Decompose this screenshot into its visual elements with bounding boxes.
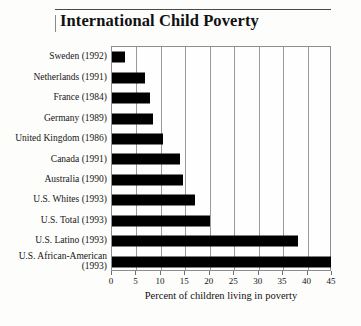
x-axis-tick-label-25: 25	[229, 276, 238, 286]
y-axis-category-labels: Sweden (1992)Netherlands (1991)France (1…	[0, 46, 107, 271]
x-axis-tick-mark-30	[258, 271, 259, 275]
y-axis-tick-label: U.S. Total (1993)	[0, 215, 107, 225]
title-divider	[55, 9, 331, 10]
bar	[112, 72, 145, 83]
bar-row	[112, 149, 330, 169]
bar-row	[112, 190, 330, 210]
x-axis-tick-mark-5	[135, 271, 136, 275]
bar-row	[112, 67, 330, 87]
bar	[112, 236, 298, 247]
bar	[112, 134, 163, 145]
x-axis-tick-mark-40	[307, 271, 308, 275]
y-axis-tick-label: U.S. Latino (1993)	[0, 235, 107, 245]
x-axis-tick-label-10: 10	[155, 276, 164, 286]
x-axis-tick-label-40: 40	[302, 276, 311, 286]
bar-row	[112, 170, 330, 190]
bar	[112, 113, 153, 124]
x-axis-tick-mark-25	[233, 271, 234, 275]
y-axis-tick-label: U.S. African-American (1993)	[0, 251, 107, 271]
title-left-tick	[55, 15, 56, 32]
bar-row	[112, 129, 330, 149]
x-axis-tick-label-5: 5	[133, 276, 138, 286]
plot-area	[111, 46, 331, 271]
x-axis-tick-mark-10	[160, 271, 161, 275]
x-axis-tick-label-30: 30	[253, 276, 262, 286]
y-axis-tick-label: Canada (1991)	[0, 154, 107, 164]
bar	[112, 215, 210, 226]
page-title: International Child Poverty	[60, 11, 259, 31]
y-axis-tick-label: Netherlands (1991)	[0, 72, 107, 82]
bar	[112, 52, 125, 63]
x-axis-tick-mark-20	[209, 271, 210, 275]
x-axis-tick-mark-0	[111, 271, 112, 275]
y-axis-tick-label: Germany (1989)	[0, 113, 107, 123]
bar-row	[112, 231, 330, 251]
bar-row	[112, 47, 330, 67]
y-axis-tick-label: United Kingdom (1986)	[0, 133, 107, 143]
bar	[112, 174, 183, 185]
bar	[112, 195, 195, 206]
x-axis-tick-label-20: 20	[204, 276, 213, 286]
bar-row	[112, 88, 330, 108]
y-axis-tick-label: France (1984)	[0, 92, 107, 102]
x-axis-tick-label-35: 35	[278, 276, 287, 286]
bar-row	[112, 108, 330, 128]
x-axis-tick-mark-15	[184, 271, 185, 275]
x-axis-tick-label-45: 45	[327, 276, 336, 286]
bar	[112, 154, 180, 165]
x-axis-tick-mark-45	[331, 271, 332, 275]
bar-row	[112, 252, 330, 272]
y-axis-tick-label: U.S. Whites (1993)	[0, 194, 107, 204]
bar	[112, 93, 150, 104]
x-axis-label: Percent of children living in poverty	[111, 290, 331, 301]
y-axis-tick-label: Australia (1990)	[0, 174, 107, 184]
x-axis-tick-mark-35	[282, 271, 283, 275]
bar-series	[112, 47, 330, 270]
chart-figure: International Child Poverty Sweden (1992…	[0, 0, 361, 326]
y-axis-tick-label: Sweden (1992)	[0, 51, 107, 61]
x-axis-tick-label-15: 15	[180, 276, 189, 286]
bar	[112, 256, 331, 267]
x-axis-tick-label-0: 0	[109, 276, 114, 286]
bar-row	[112, 211, 330, 231]
